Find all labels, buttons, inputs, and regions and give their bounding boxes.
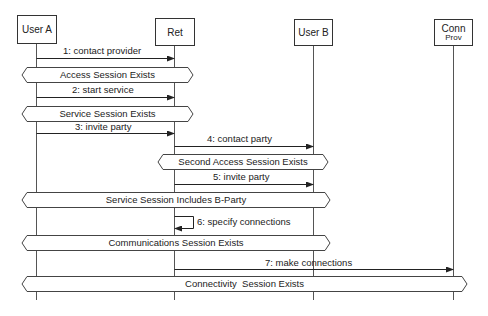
participant-label: Ret: [167, 27, 183, 38]
participant-ret: Ret: [155, 18, 195, 46]
session-label-connectivity: Connectivity Session Exists: [22, 279, 467, 289]
message-label-7: 7: make connections: [265, 258, 352, 268]
participant-user-b: User B: [294, 19, 333, 46]
participant-conn-prov: Conn Prov: [434, 19, 473, 46]
message-label-5: 5: invite party: [213, 172, 270, 182]
session-label-second-access: Second Access Session Exists: [158, 157, 328, 167]
message-label-2: 2: start service: [72, 85, 134, 95]
message-arrow-6-self: [175, 217, 194, 229]
session-label-access: Access Session Exists: [22, 70, 193, 80]
participant-label: Conn: [442, 23, 466, 34]
session-label-communications: Communications Session Exists: [22, 238, 330, 248]
participant-label: User B: [298, 27, 329, 38]
message-label-3: 3: invite party: [75, 122, 132, 132]
session-label-service: Service Session Exists: [22, 109, 193, 119]
session-label-service-b-party: Service Session Includes B-Party: [22, 195, 330, 205]
message-label-4: 4: contact party: [207, 134, 272, 144]
participant-label: User A: [22, 24, 52, 35]
message-label-1: 1: contact provider: [63, 46, 141, 56]
participant-user-a: User A: [17, 15, 57, 44]
participant-sublabel: Prov: [445, 34, 461, 43]
message-label-6: 6: specify connections: [197, 217, 290, 227]
